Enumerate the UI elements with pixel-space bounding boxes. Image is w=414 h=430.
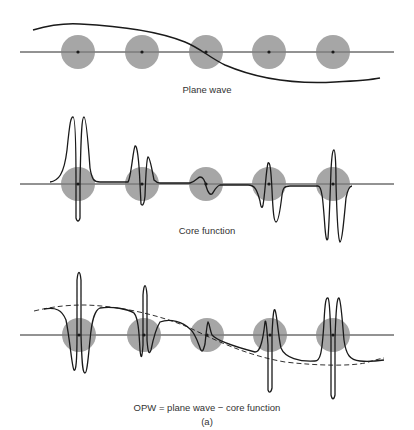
opw-diagram bbox=[0, 0, 414, 430]
panel-core-function bbox=[20, 117, 394, 242]
core-function-label: Core function bbox=[179, 225, 236, 236]
figure-caption: (a) bbox=[201, 416, 213, 427]
panel-opw bbox=[20, 273, 394, 399]
opw-equation-label: OPW = plane wave − core function bbox=[134, 402, 281, 413]
panel-plane-wave bbox=[20, 24, 394, 83]
plane-wave-label: Plane wave bbox=[182, 84, 231, 95]
